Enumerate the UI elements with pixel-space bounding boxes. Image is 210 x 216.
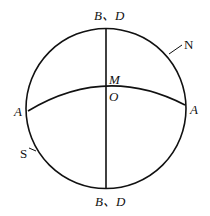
label-m: M xyxy=(108,72,121,87)
label-a-right: A xyxy=(189,102,198,117)
label-bottom-bd: B、D xyxy=(95,194,126,209)
label-s: S xyxy=(20,146,27,161)
north-marker-tick xyxy=(169,45,182,54)
label-a-left: A xyxy=(13,104,22,119)
label-o: O xyxy=(109,89,119,104)
south-marker-tick xyxy=(29,148,36,151)
label-top-bd: B、D xyxy=(94,8,125,23)
globe-diagram: B、D B、D M O A A N S xyxy=(0,0,210,216)
label-n: N xyxy=(184,37,194,52)
